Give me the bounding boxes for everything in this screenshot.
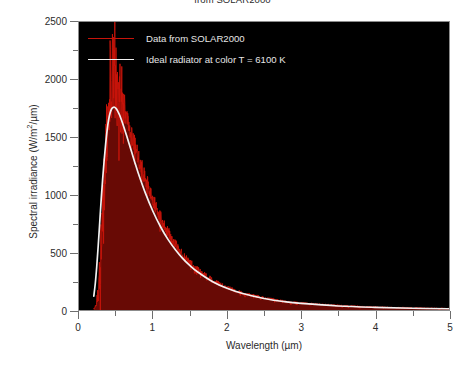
- legend-swatch-data: [88, 38, 134, 39]
- y-tick-major: [70, 137, 78, 138]
- x-tick-minor: [338, 311, 339, 316]
- x-tick-major: [227, 311, 228, 319]
- x-tick-major: [152, 311, 153, 319]
- x-tick-major: [450, 311, 451, 319]
- x-tick-label: 2: [207, 322, 247, 333]
- y-tick-minor: [73, 224, 78, 225]
- legend: Data from SOLAR2000 Ideal radiator at co…: [88, 28, 348, 70]
- y-axis-title-exponent: 2: [25, 125, 34, 129]
- y-tick-label: 0: [7, 306, 67, 317]
- y-tick-major: [70, 195, 78, 196]
- y-axis-title-suffix: /µm): [28, 104, 39, 124]
- y-tick-major: [70, 311, 78, 312]
- x-tick-minor: [413, 311, 414, 316]
- y-tick-label: 2500: [7, 16, 67, 27]
- x-tick-major: [78, 311, 79, 319]
- y-axis-title-prefix: Spectral irradiance (W/m: [28, 129, 39, 239]
- x-tick-major: [301, 311, 302, 319]
- x-tick-minor: [190, 311, 191, 316]
- x-axis-title: Wavelength (µm): [78, 340, 450, 351]
- spectral-irradiance-figure: from SOLAR2000 0500100015002000250001234…: [0, 0, 465, 365]
- y-tick-minor: [73, 282, 78, 283]
- x-tick-minor: [115, 311, 116, 316]
- y-tick-minor: [73, 108, 78, 109]
- y-tick-major: [70, 253, 78, 254]
- y-tick-major: [70, 21, 78, 22]
- x-tick-label: 1: [132, 322, 172, 333]
- legend-swatch-ideal: [88, 59, 134, 60]
- legend-item-data: Data from SOLAR2000: [88, 28, 348, 49]
- x-tick-label: 0: [58, 322, 98, 333]
- y-axis-title: Spectral irradiance (W/m2/µm): [28, 47, 39, 297]
- y-tick-major: [70, 79, 78, 80]
- legend-label-ideal: Ideal radiator at color T = 6100 K: [146, 54, 286, 65]
- x-tick-major: [376, 311, 377, 319]
- chart-title: from SOLAR2000: [0, 0, 465, 5]
- legend-label-data: Data from SOLAR2000: [146, 33, 245, 44]
- y-tick-minor: [73, 50, 78, 51]
- legend-item-ideal: Ideal radiator at color T = 6100 K: [88, 49, 348, 70]
- x-tick-label: 3: [281, 322, 321, 333]
- x-tick-label: 4: [356, 322, 396, 333]
- x-tick-label: 5: [430, 322, 465, 333]
- x-tick-minor: [264, 311, 265, 316]
- y-tick-minor: [73, 166, 78, 167]
